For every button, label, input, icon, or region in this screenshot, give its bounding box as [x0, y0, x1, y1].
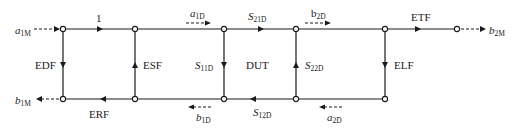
label-b1d: b1D	[196, 111, 211, 125]
arrow-right-icon	[258, 26, 264, 32]
node	[293, 96, 298, 101]
node	[60, 96, 65, 101]
node	[454, 26, 459, 31]
node	[221, 96, 226, 101]
label-s11d: S11D	[195, 59, 214, 73]
node	[132, 26, 137, 31]
arrow-left-icon	[250, 96, 256, 102]
arrow-down-icon	[382, 62, 388, 68]
arrow-up-icon	[293, 62, 299, 68]
a2d-arrow-icon	[319, 105, 325, 110]
node	[60, 26, 65, 31]
arrow-left-icon	[100, 96, 106, 102]
node	[132, 96, 137, 101]
label-elf: ELF	[394, 59, 414, 71]
arrow-right-icon	[415, 26, 421, 32]
label-etf: ETF	[411, 11, 431, 23]
label-b1m: b1M	[15, 94, 31, 108]
label-s22d: S22D	[305, 59, 324, 73]
node	[382, 26, 387, 31]
label-dut: DUT	[246, 59, 269, 71]
label-b2d: b2D	[311, 7, 326, 21]
signal-flow-graph: a1M b1M b2M 1 EDF ESF ERF ETF ELF DUT S1…	[0, 0, 519, 129]
node	[221, 26, 226, 31]
arrow-down-icon	[221, 62, 227, 68]
label-erf: ERF	[89, 108, 109, 120]
b2d-arrow-icon	[325, 21, 331, 26]
label-s12d: S12D	[253, 106, 272, 120]
b2m-arrow-icon	[480, 26, 486, 32]
b1d-arrow-icon	[188, 105, 194, 110]
a1m-arrow-icon	[54, 26, 60, 32]
arrow-down-icon	[60, 62, 66, 68]
arrow-up-icon	[132, 62, 138, 68]
a1d-arrow-icon	[205, 21, 211, 26]
label-a1d: a1D	[190, 7, 205, 21]
node	[382, 96, 387, 101]
label-a2d: a2D	[327, 111, 342, 125]
label-edf: EDF	[35, 59, 56, 71]
b1m-arrow-icon	[36, 96, 42, 102]
label-a1m: a1M	[15, 24, 31, 38]
label-b2m: b2M	[489, 24, 505, 38]
label-unity: 1	[96, 12, 102, 24]
label-s21d: S21D	[248, 10, 267, 24]
arrow-right-icon	[97, 26, 103, 32]
node	[293, 26, 298, 31]
label-esf: ESF	[143, 59, 162, 71]
